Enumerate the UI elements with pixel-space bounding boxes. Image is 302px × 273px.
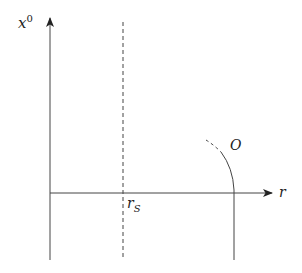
- observer-worldline: [221, 152, 234, 260]
- observer-worldline-dashed: [206, 140, 221, 152]
- r-axis-label: r: [279, 184, 287, 200]
- x0-axis-label: x0: [18, 13, 33, 32]
- spacetime-diagram: x0 r rS O: [0, 0, 302, 273]
- rs-label: rS: [127, 195, 141, 214]
- observer-label: O: [230, 137, 242, 153]
